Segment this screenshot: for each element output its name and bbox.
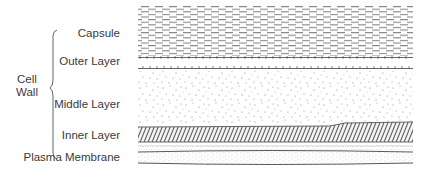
cell-wall-brace	[50, 30, 57, 159]
label-plasma-membrane: Plasma Membrane	[23, 151, 120, 163]
label-inner-layer: Inner Layer	[62, 129, 120, 141]
label-cell-wall-line2: Wall	[16, 86, 38, 99]
capsule-layer	[138, 5, 413, 56]
label-middle-layer: Middle Layer	[54, 98, 120, 110]
outer-layer	[138, 56, 413, 69]
plasma-membrane-layer	[138, 151, 413, 165]
label-cell-wall: Cell Wall	[16, 73, 38, 99]
inner-layer	[138, 122, 413, 142]
dotted-band	[138, 144, 413, 150]
label-capsule: Capsule	[78, 27, 120, 39]
label-outer-layer: Outer Layer	[59, 55, 120, 67]
label-cell-wall-line1: Cell	[16, 73, 38, 86]
middle-layer	[138, 71, 413, 123]
